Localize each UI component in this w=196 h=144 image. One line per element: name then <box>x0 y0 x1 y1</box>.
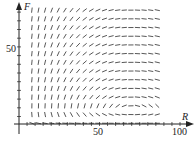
slope-segment <box>70 112 73 117</box>
slope-segment <box>102 53 107 55</box>
slope-segment <box>70 26 73 30</box>
slope-segment <box>96 52 101 54</box>
slope-segment <box>70 60 73 64</box>
slope-segment <box>102 9 107 11</box>
slope-segment <box>64 17 67 21</box>
slope-segment <box>122 114 127 115</box>
slope-segment <box>148 96 153 98</box>
slope-segment <box>63 8 66 12</box>
slope-segment <box>77 86 80 90</box>
slope-segment <box>122 79 127 80</box>
slope-segment <box>115 53 120 54</box>
slope-segment <box>89 35 93 38</box>
slope-segment <box>109 44 114 45</box>
slope-segment <box>83 9 87 12</box>
y-axis-label: F <box>23 1 31 12</box>
slope-segment <box>115 79 120 80</box>
slope-segment <box>97 103 99 108</box>
slope-segment <box>64 86 66 91</box>
slope-segment <box>57 112 59 117</box>
slope-segment <box>155 18 160 19</box>
slope-segment <box>64 112 66 117</box>
slope-segment <box>32 51 33 56</box>
slope-segment <box>76 60 79 64</box>
slope-segment <box>58 103 59 108</box>
y-axis-arrow-icon <box>16 2 22 10</box>
slope-segment <box>38 86 39 91</box>
slope-segment <box>109 36 114 37</box>
slope-segment <box>142 10 147 11</box>
slope-segment <box>83 113 86 117</box>
slope-segment <box>45 86 46 91</box>
slope-segment <box>155 62 160 63</box>
slope-segment <box>57 34 59 39</box>
slope-segment <box>38 51 39 56</box>
slope-segment <box>51 8 53 13</box>
slope-segment <box>142 45 147 46</box>
slope-segment <box>89 78 93 81</box>
slope-segment <box>71 103 72 108</box>
slope-segment <box>64 77 66 82</box>
slope-segment <box>32 60 33 65</box>
slope-segment <box>38 16 39 21</box>
slope-segment <box>51 25 53 30</box>
slope-segment <box>57 25 59 30</box>
slope-segment <box>89 44 93 47</box>
slope-segment <box>64 69 66 74</box>
slope-segment <box>109 96 114 98</box>
slope-segment <box>148 71 153 72</box>
slope-segment <box>83 86 86 90</box>
slope-segment <box>142 97 147 98</box>
slope-segment <box>83 78 87 82</box>
slope-segment <box>32 34 33 39</box>
slope-segment <box>155 79 160 80</box>
slope-segment <box>148 18 153 19</box>
slope-segment <box>44 34 45 39</box>
slope-segment <box>109 62 114 63</box>
slope-segment <box>102 96 106 99</box>
slope-segment <box>90 103 92 108</box>
slope-segment <box>38 8 39 13</box>
slope-segment <box>57 69 59 74</box>
slope-segment <box>51 51 53 56</box>
slope-segment <box>76 78 79 82</box>
slope-segment <box>109 53 114 54</box>
slope-segment <box>83 95 86 99</box>
slope-segments <box>29 8 159 125</box>
slope-segment <box>115 114 120 115</box>
slope-segment <box>96 113 100 116</box>
slope-segment <box>155 70 160 71</box>
slope-segment <box>115 18 120 19</box>
slope-segment <box>38 68 39 73</box>
slope-segment <box>109 79 114 81</box>
slope-segment <box>102 44 107 46</box>
x-axis-label: R <box>181 111 188 122</box>
slope-segment <box>89 61 93 64</box>
slope-segment <box>64 25 67 29</box>
y-tick-label-50: 50 <box>6 43 16 54</box>
slope-segment <box>57 17 59 22</box>
slope-segment <box>44 51 45 56</box>
slope-segment <box>109 104 112 108</box>
slope-segment <box>102 18 107 20</box>
slope-segment <box>32 68 33 73</box>
slope-segment <box>89 70 93 73</box>
slope-segment <box>96 44 101 46</box>
slope-segment <box>102 27 107 29</box>
slope-segment <box>44 8 45 13</box>
slope-segment <box>148 53 153 54</box>
slope-segment <box>148 10 153 11</box>
slope-segment <box>102 61 107 63</box>
slope-segment <box>76 17 80 21</box>
slope-segment <box>51 86 52 91</box>
slope-segment <box>115 71 120 72</box>
slope-segment <box>142 105 147 107</box>
slope-segment <box>77 112 80 116</box>
slope-segment <box>148 114 153 115</box>
x-tick-label-100: 100 <box>172 126 187 137</box>
slope-segment <box>38 25 39 30</box>
slope-segment <box>142 53 147 54</box>
slope-segment <box>45 77 46 82</box>
slope-segment <box>96 78 100 81</box>
slope-segment <box>148 88 153 89</box>
